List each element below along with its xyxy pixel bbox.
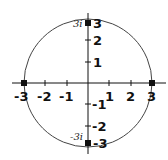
y-tick-label: 1 xyxy=(93,55,102,70)
y-tick-label: -3 xyxy=(93,136,107,151)
point-neg-3 xyxy=(21,80,27,86)
complex-plane: -3 -2 -1 1 2 3 3 2 1 -1 -2 -3 3i -3i xyxy=(0,0,168,160)
y-tick-label: -2 xyxy=(92,119,106,134)
point-label-3i: 3i xyxy=(73,18,83,29)
point-neg-3i xyxy=(85,140,91,146)
point-label-neg-3i: -3i xyxy=(70,131,83,142)
x-tick-label: -1 xyxy=(59,89,73,104)
x-tick-label: 3 xyxy=(147,89,156,104)
x-tick-label: -3 xyxy=(14,89,28,104)
x-tick-label: -2 xyxy=(37,89,51,104)
diagram: -3 -2 -1 1 2 3 3 2 1 -1 -2 -3 3i -3i xyxy=(0,0,168,160)
y-tick-label: 2 xyxy=(93,33,102,48)
x-tick-label: 2 xyxy=(126,89,135,104)
y-tick-label: -1 xyxy=(92,97,106,112)
y-tick-label: 3 xyxy=(93,16,102,31)
point-3i xyxy=(85,20,91,26)
point-3 xyxy=(149,80,155,86)
